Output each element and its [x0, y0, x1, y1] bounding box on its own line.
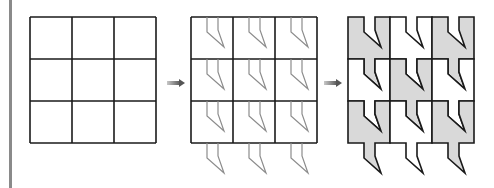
notch-outline [207, 101, 224, 131]
notch-outline [207, 17, 224, 47]
notch-outline [207, 59, 224, 89]
notch-outline [249, 59, 266, 89]
notch-outline [249, 143, 266, 173]
notch-outline [291, 143, 308, 173]
panel-notch-grid [191, 17, 317, 173]
panel-tessellation [348, 17, 474, 173]
notch-outline [207, 143, 224, 173]
notch-outline [249, 101, 266, 131]
notch-outline [291, 59, 308, 89]
tessellation-diagram [0, 0, 494, 188]
notch-outline [291, 101, 308, 131]
notch-outline [249, 17, 266, 47]
panel-plain-grid [30, 17, 156, 143]
arrow-right-icon [167, 79, 185, 87]
arrow-right-icon [324, 79, 342, 87]
notch-outline [291, 17, 308, 47]
